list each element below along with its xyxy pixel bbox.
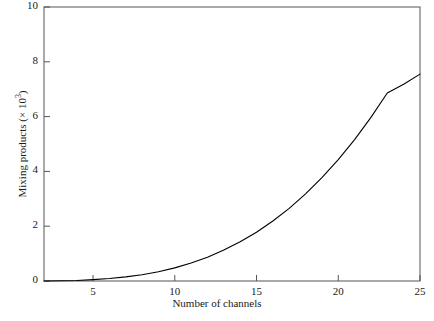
y-tick-label: 10: [10, 0, 38, 11]
x-tick-label: 25: [400, 285, 434, 297]
x-tick-label: 15: [237, 285, 277, 297]
x-tick-label: 5: [73, 285, 113, 297]
chart-figure: 0246810 510152025 Number of channels Mix…: [0, 0, 434, 321]
y-axis-title-prefix: Mixing products (× 10: [16, 98, 28, 197]
y-axis-title-suffix: ): [16, 90, 28, 94]
y-tick-label: 0: [10, 273, 38, 285]
x-tick-label: 20: [318, 285, 358, 297]
x-tick-label: 10: [155, 285, 195, 297]
plot-canvas: [0, 0, 434, 321]
x-axis-title: Number of channels: [0, 297, 434, 309]
y-axis-title-exponent: 3: [14, 94, 23, 98]
plot-frame: [44, 7, 420, 281]
y-axis-title: Mixing products (× 103): [16, 64, 28, 224]
